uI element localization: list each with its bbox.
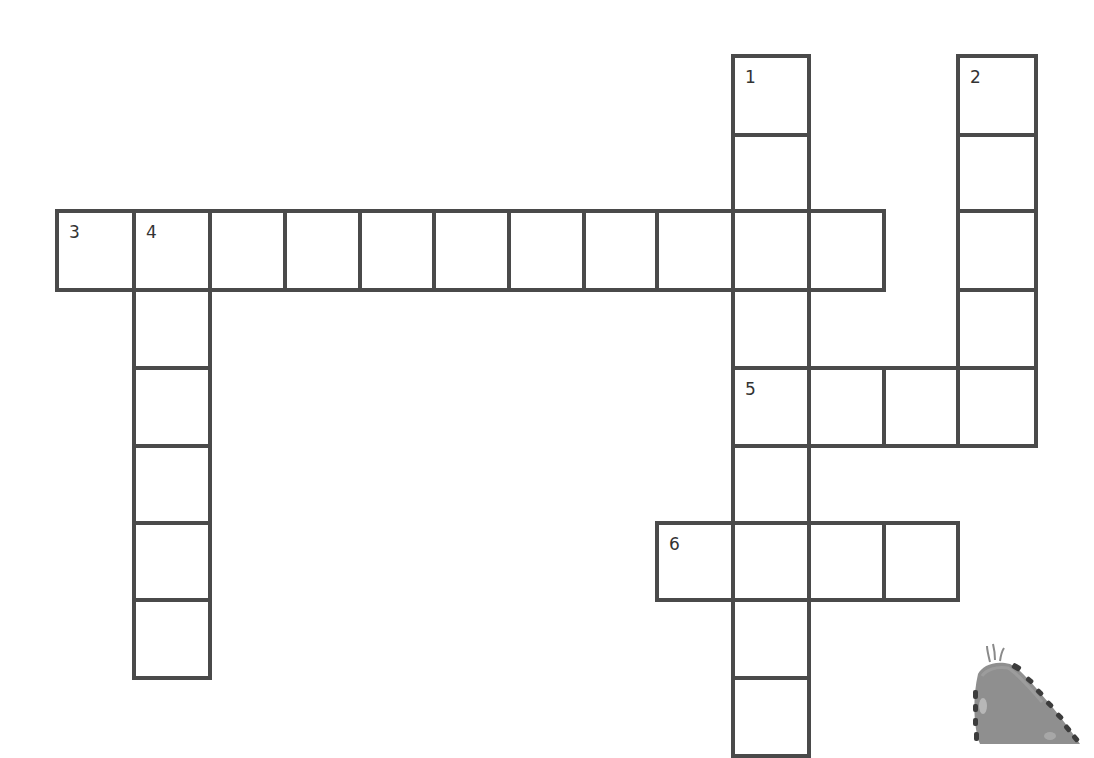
crossword-cell[interactable]: [358, 209, 436, 292]
crossword-cell[interactable]: [132, 598, 212, 680]
crossword-cell[interactable]: 6: [655, 521, 735, 602]
clue-number: 1: [745, 69, 756, 86]
crossword-cell[interactable]: [731, 598, 811, 680]
crossword-cell[interactable]: [956, 209, 1038, 292]
crossword-cell[interactable]: [807, 521, 886, 602]
clue-number: 3: [69, 224, 80, 241]
crossword-cell[interactable]: [956, 288, 1038, 370]
crossword-cell[interactable]: [882, 366, 960, 448]
crossword-cell[interactable]: 5: [731, 366, 811, 448]
crossword-cell[interactable]: [956, 133, 1038, 213]
crossword-cell[interactable]: 2: [956, 54, 1038, 137]
crossword-cell[interactable]: [582, 209, 659, 292]
crossword-cell[interactable]: [132, 288, 212, 370]
clue-number: 5: [745, 381, 756, 398]
crossword-cell[interactable]: [807, 209, 886, 292]
crossword-cell[interactable]: [132, 366, 212, 448]
crossword-cell[interactable]: [731, 209, 811, 292]
clue-number: 2: [970, 69, 981, 86]
crossword-cell[interactable]: [731, 288, 811, 370]
crossword-cell[interactable]: [655, 209, 735, 292]
crossword-cell[interactable]: 1: [731, 54, 811, 137]
crossword-cell[interactable]: [507, 209, 586, 292]
crossword-cell[interactable]: [208, 209, 287, 292]
crossword-cell[interactable]: [283, 209, 362, 292]
crossword-cell[interactable]: [807, 366, 886, 448]
crossword-cell[interactable]: [956, 366, 1038, 448]
clue-number: 6: [669, 536, 680, 553]
crossword-cell[interactable]: [731, 133, 811, 213]
clue-number: 4: [146, 224, 157, 241]
crossword-cell[interactable]: [731, 676, 811, 758]
crossword-cell[interactable]: [731, 521, 811, 602]
crossword-cell[interactable]: 3: [55, 209, 136, 292]
crossword-cell[interactable]: [731, 444, 811, 525]
caterpillar-icon: [960, 640, 1094, 744]
crossword-cell[interactable]: [882, 521, 960, 602]
crossword-cell[interactable]: [132, 444, 212, 525]
crossword-cell[interactable]: [432, 209, 511, 292]
crossword-cell[interactable]: 4: [132, 209, 212, 292]
crossword-cell[interactable]: [132, 521, 212, 602]
